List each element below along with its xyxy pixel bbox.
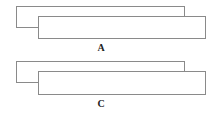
figure-a-label: A [91,42,111,53]
figure-c-label: C [91,98,111,109]
figure-c-front-rectangle [38,71,206,95]
figure-a-front-rectangle [38,16,206,39]
